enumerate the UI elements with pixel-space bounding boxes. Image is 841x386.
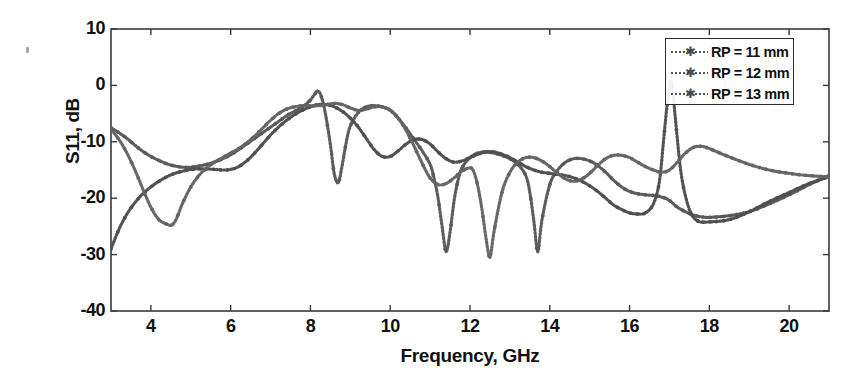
data-series [109,91,829,252]
legend-marker-icon: ✱ [670,87,708,101]
legend-label: RP = 12 mm [711,65,789,81]
legend-marker-icon: ✱ [670,45,708,59]
legend-label: RP = 11 mm [711,44,789,60]
series-group [109,80,829,258]
legend-item: ✱ RP = 11 mm [670,41,792,62]
legend-item: ✱ RP = 12 mm [670,62,792,83]
data-series [109,80,829,251]
legend-item: ✱ RP = 13 mm [670,83,792,104]
legend-label: RP = 13 mm [711,86,789,102]
chart-figure: S11, dB Frequency, GHz 100-10-20-30-40 4… [0,0,841,386]
legend: ✱ RP = 11 mm ✱ RP = 12 mm ✱ RP = 13 mm [665,38,794,105]
data-series [109,102,829,258]
legend-marker-icon: ✱ [670,66,708,80]
